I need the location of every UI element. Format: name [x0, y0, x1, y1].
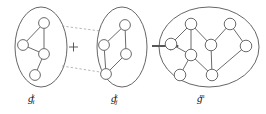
graph-merge-diagram [0, 0, 266, 114]
caption-superscript: k [114, 92, 117, 100]
correspondence-lines [62, 26, 100, 72]
graph-node [30, 70, 41, 81]
caption-superscript: k [31, 92, 34, 100]
graph-nodes-middle [99, 20, 132, 80]
graph-node [185, 49, 197, 61]
graph-node [99, 40, 110, 51]
graph-edge [212, 46, 246, 75]
graph-node [205, 39, 217, 51]
graph-node [101, 69, 112, 80]
merged-graph [159, 7, 259, 87]
graph-node [206, 69, 218, 81]
graph-nodes-right [165, 18, 252, 81]
graph-node [165, 38, 177, 50]
figure-container: gik gjk gm [0, 0, 266, 114]
graph-node [240, 40, 252, 52]
graph-node [18, 40, 29, 51]
caption-graph-j: gjk [111, 93, 118, 106]
graph-node [185, 18, 197, 30]
caption-merged-graph: gm [197, 93, 205, 104]
dashed-correspondence-line [62, 26, 100, 31]
graph-node [39, 49, 50, 60]
caption-graph-i: gik [28, 93, 35, 106]
graph-node [224, 18, 236, 30]
graph-node [120, 20, 131, 31]
graph-node [121, 49, 132, 60]
plus-operator-icon [69, 43, 78, 52]
dashed-correspondence-line [62, 66, 100, 72]
graph-node [174, 69, 186, 81]
graph-node [39, 18, 50, 29]
graph-fragment-i [15, 7, 67, 87]
graph-fragment-j [97, 7, 147, 87]
caption-superscript: m [200, 92, 205, 100]
